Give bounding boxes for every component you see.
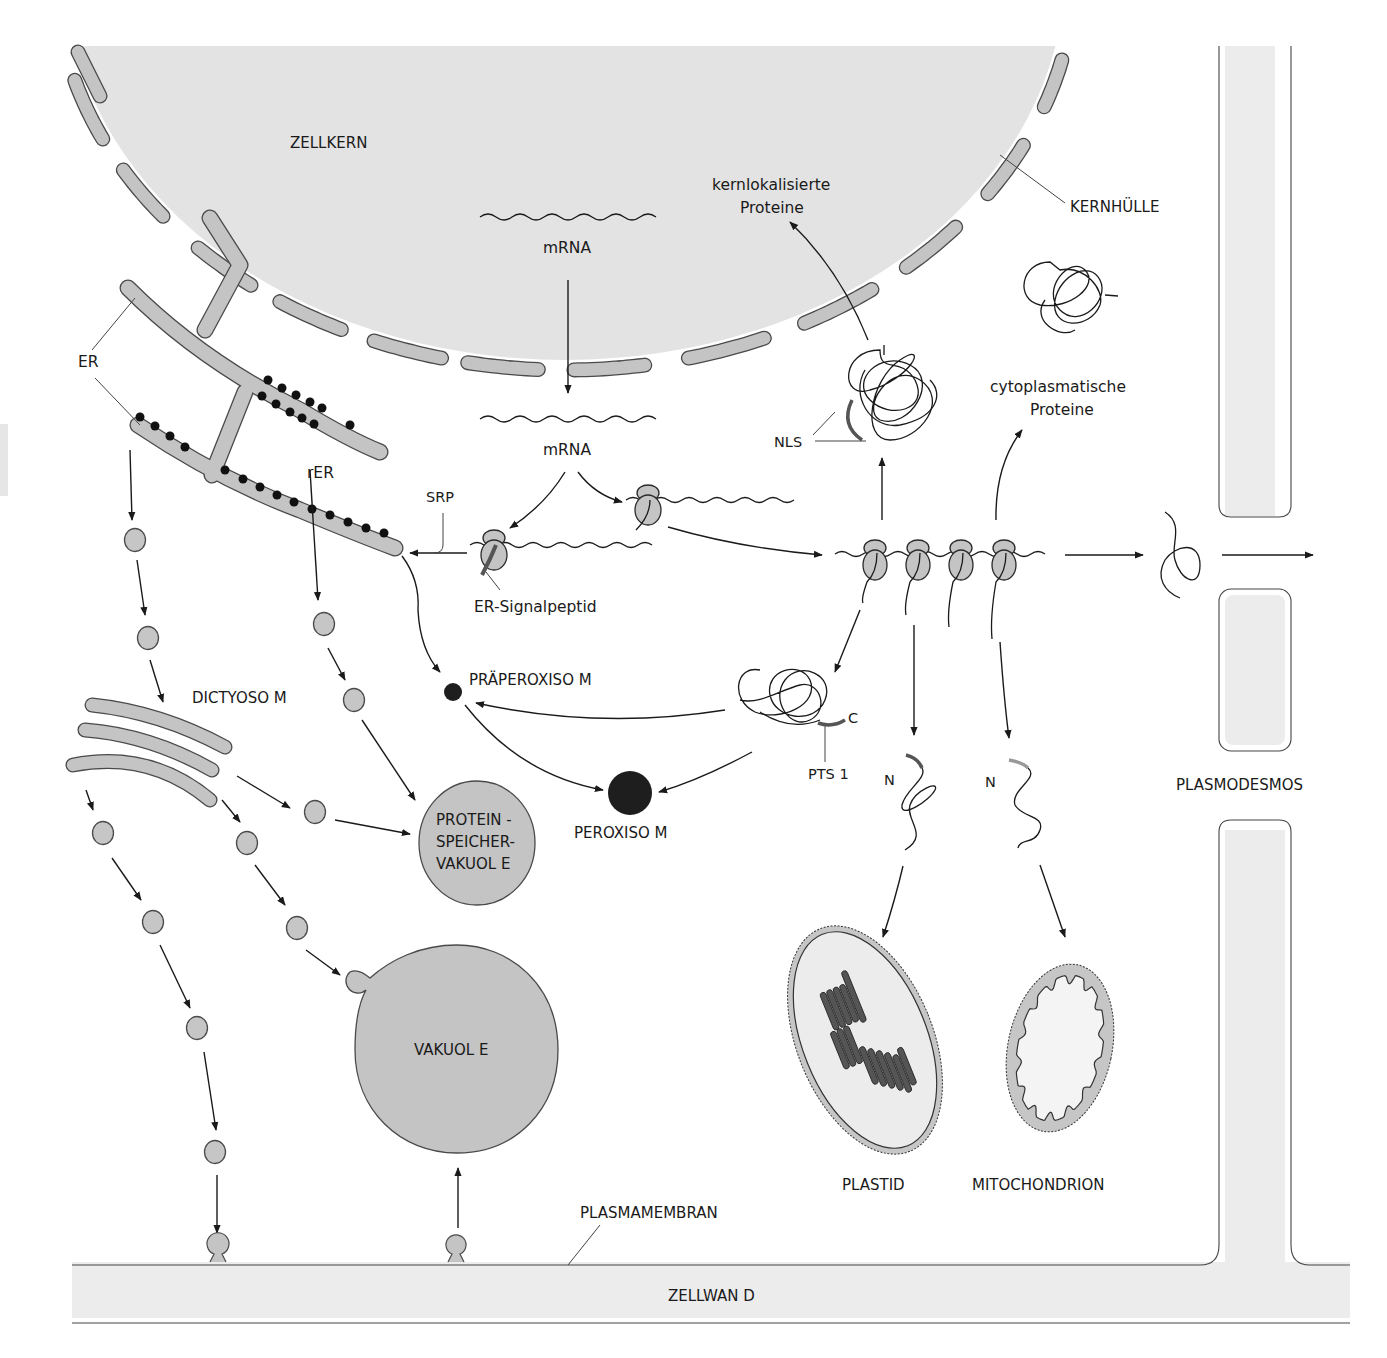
vesicles: [93, 529, 365, 1164]
vesicle: [305, 801, 326, 824]
leader-er-signalpeptid: [486, 572, 500, 590]
vesicle-transport-arrow: [237, 776, 290, 808]
mitochondrion: [991, 954, 1128, 1142]
ribosome-dot: [166, 432, 175, 441]
label-mrna-nucleus: mRNA: [543, 239, 591, 257]
vesicle-transport-arrow: [137, 560, 145, 615]
ribosome-dot: [298, 414, 307, 423]
ribosome-dot: [306, 398, 315, 407]
leader-nls-1: [813, 412, 835, 435]
ribosome-dot: [290, 498, 299, 507]
arrow-mrna-to-er-ribosome: [510, 472, 565, 528]
envelope-segment: [574, 365, 645, 370]
plastid-precursor-chain: [902, 768, 936, 850]
ribosome-dot: [239, 475, 248, 484]
dictyosom: [73, 705, 225, 800]
cell-wall-segment-mid: [1225, 595, 1285, 745]
ribosome-dot: [380, 529, 389, 538]
peroxisom: [608, 771, 652, 815]
vesicle: [205, 1141, 226, 1164]
vesicle: [314, 613, 335, 636]
label-proteinspeicher-1: PROTEIN -: [436, 811, 512, 829]
vesicle: [143, 911, 164, 934]
cell-wall-segment-bottom: [72, 830, 1350, 1318]
label-kernhuelle: KERNHÜLLE: [1070, 197, 1159, 216]
ribosome-dot: [221, 466, 230, 475]
vesicle-transport-arrow: [362, 720, 415, 800]
arrow-to-mitochondrion: [1040, 865, 1065, 937]
label-er: ER: [78, 353, 99, 371]
leader-srp: [434, 513, 443, 553]
protein-transport-diagram: ZELLKERN mRNA KERNHÜLLE kernlokalisierte…: [0, 0, 1387, 1358]
ribosome-dot: [272, 400, 281, 409]
label-zellwand: ZELLWAN D: [668, 1287, 755, 1305]
label-proteinspeicher-2: SPEICHER-: [436, 833, 515, 851]
ribosome-dot: [181, 443, 190, 452]
nls-protein-tangle: [849, 345, 937, 440]
label-n-plastid: N: [884, 772, 895, 788]
ribosome-dot: [362, 524, 371, 533]
leader-plasmamembran: [568, 1225, 600, 1265]
label-mitochondrion: MITOCHONDRION: [972, 1176, 1105, 1194]
vesicle-transport-arrow: [112, 858, 141, 900]
ribosome-dot: [310, 420, 319, 429]
label-peroxisom: PEROXISO M: [574, 824, 668, 842]
leader-er-upper: [92, 298, 135, 350]
arrow-to-cytoplasmic-proteins: [996, 430, 1022, 520]
plasma-membrane-segment-bottom-left: [72, 820, 1350, 1265]
pts1-protein-tangle: [739, 669, 827, 724]
ribosome-dot: [256, 483, 265, 492]
arrow-to-polysome: [668, 527, 822, 555]
label-n-mito: N: [985, 774, 996, 790]
label-vakuole: VAKUOL E: [414, 1041, 488, 1059]
label-cytoplasmatische-2: Proteine: [1030, 401, 1094, 419]
pts1-signal: [818, 720, 845, 725]
free-ribosome: [626, 485, 794, 530]
vesicle-transport-arrow: [222, 800, 240, 822]
page-edge-mark: [0, 424, 8, 496]
label-cytoplasmatische-1: cytoplasmatische: [990, 378, 1126, 396]
ribosome-large-subunit: [992, 550, 1016, 580]
label-plasmamembran: PLASMAMEMBRAN: [580, 1204, 718, 1222]
label-kernlokalisierte-2: Proteine: [740, 199, 804, 217]
label-nls: NLS: [774, 434, 802, 450]
ribosome-dot: [346, 421, 355, 430]
ribosome-dot: [286, 408, 295, 417]
leader-er-lower: [95, 378, 140, 425]
label-mrna-cytosol: mRNA: [543, 441, 591, 459]
endocytosis-vesicle: [446, 1235, 466, 1262]
vesicle-transport-arrow: [150, 660, 163, 702]
exocytosis-vesicle: [207, 1233, 229, 1262]
er-bound-ribosome: [470, 530, 652, 575]
label-plasmodesmos: PLASMODESMOS: [1176, 776, 1303, 794]
arrow-pts1-to-praeperoxisom: [476, 703, 725, 719]
plastid-transit-peptide: [906, 755, 922, 768]
praeperoxisom: [444, 683, 462, 701]
ribosome-dot: [273, 491, 282, 500]
vesicle-transport-arrow: [310, 470, 318, 600]
cytoplasmic-protein-tangle: [1024, 262, 1118, 333]
mrna-cytosol-icon: [480, 416, 656, 422]
ribosome-dot: [344, 518, 353, 527]
vesicle-transport-arrow: [130, 450, 132, 520]
leader-kernhuelle: [1000, 155, 1065, 203]
vesicle-transport-arrow: [328, 648, 345, 680]
ribosome-dot: [326, 511, 335, 520]
label-pts1: PTS 1: [808, 766, 849, 782]
cell-wall-segment-top: [1225, 46, 1275, 516]
nls-signal: [848, 400, 862, 440]
ribosome-large-subunit: [906, 550, 930, 580]
vesicle-transport-arrow: [306, 950, 340, 975]
mito-precursor-chain: [1014, 768, 1040, 848]
ribosome-dot: [278, 384, 287, 393]
vesicle-transport-arrow: [86, 790, 93, 810]
arrow-rer-to-praeperoxisom: [402, 556, 440, 672]
ribosome-dot: [318, 404, 327, 413]
ribosome-dot: [264, 376, 273, 385]
label-zellkern: ZELLKERN: [290, 134, 367, 152]
vesicle-transport-arrow: [204, 1052, 216, 1130]
label-srp: SRP: [426, 489, 454, 505]
er-connector-mid-fill: [212, 392, 245, 475]
vesicle: [287, 917, 308, 940]
vesicle: [93, 822, 114, 845]
